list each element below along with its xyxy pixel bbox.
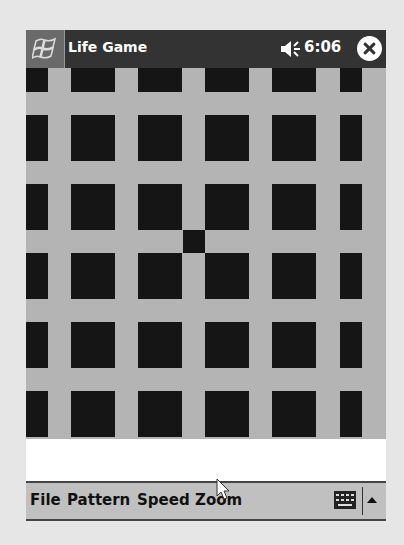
live-cell-block: [340, 322, 362, 368]
live-cell-block: [205, 184, 249, 230]
live-cell-block: [340, 391, 362, 437]
live-cell-block: [272, 68, 316, 92]
live-cell-block: [71, 391, 115, 437]
pocketpc-screen: Life Game 6:06 File Pattern Speed Zoom: [26, 30, 386, 521]
live-cell-block: [71, 253, 115, 299]
live-cell-block: [138, 253, 182, 299]
live-cell-block: [26, 184, 48, 230]
live-cell-block: [71, 184, 115, 230]
triangle-up-icon[interactable]: [367, 497, 377, 503]
menu-bar: File Pattern Speed Zoom: [26, 483, 386, 521]
sip-divider: [362, 487, 363, 515]
live-cell-block: [340, 115, 362, 161]
live-cell-block: [205, 322, 249, 368]
start-button[interactable]: [26, 30, 65, 68]
menu-pattern[interactable]: Pattern: [67, 491, 130, 509]
windows-flag-icon: [32, 35, 58, 61]
live-cell: [183, 230, 205, 253]
live-cell-block: [205, 253, 249, 299]
live-cell-block: [26, 322, 48, 368]
life-game-board[interactable]: [26, 68, 386, 439]
live-cell-block: [26, 391, 48, 437]
live-cell-block: [71, 115, 115, 161]
app-title: Life Game: [68, 39, 147, 55]
live-cell-block: [71, 68, 115, 92]
live-cell-block: [340, 184, 362, 230]
clock[interactable]: 6:06: [304, 38, 341, 56]
live-cell-block: [272, 391, 316, 437]
menu-file[interactable]: File: [30, 491, 61, 509]
menu-speed[interactable]: Speed: [137, 491, 190, 509]
live-cell-block: [340, 253, 362, 299]
live-cell-block: [272, 322, 316, 368]
live-cell-block: [272, 253, 316, 299]
live-cell-block: [138, 322, 182, 368]
speaker-icon[interactable]: [280, 40, 302, 58]
live-cell-block: [26, 115, 48, 161]
live-cell-block: [272, 184, 316, 230]
title-bar: Life Game 6:06: [26, 30, 386, 68]
live-cell-block: [26, 68, 48, 92]
live-cell-block: [138, 391, 182, 437]
live-cell-block: [138, 184, 182, 230]
live-cell-block: [26, 253, 48, 299]
mouse-cursor-icon: [216, 478, 232, 502]
keyboard-icon[interactable]: [334, 491, 356, 509]
live-cell-block: [138, 68, 182, 92]
live-cell-block: [272, 115, 316, 161]
close-button[interactable]: [357, 36, 382, 61]
live-cell-block: [205, 68, 249, 92]
live-cell-block: [71, 322, 115, 368]
live-cell-block: [205, 115, 249, 161]
live-cell-block: [205, 391, 249, 437]
live-cell-block: [340, 68, 362, 92]
input-area: [26, 439, 386, 483]
live-cell-block: [138, 115, 182, 161]
